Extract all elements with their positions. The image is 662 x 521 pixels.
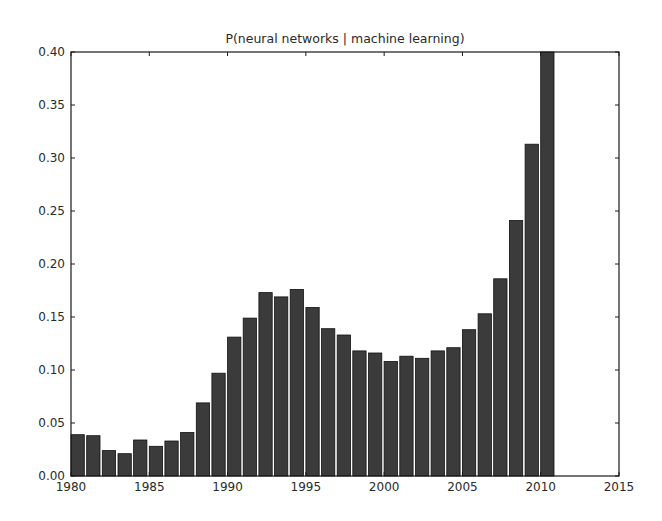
x-axis-tick-labels: 19801985199019952000200520102015 — [56, 480, 635, 494]
x-tick-label: 1980 — [56, 480, 87, 494]
x-tick-label: 2000 — [369, 480, 400, 494]
x-tick-label: 1995 — [291, 480, 322, 494]
bar-1992 — [259, 293, 272, 476]
bar-1996 — [322, 329, 335, 476]
y-tick-label: 0.35 — [38, 98, 65, 112]
x-tick-label: 2010 — [525, 480, 556, 494]
chart-title: P(neural networks | machine learning) — [225, 31, 464, 46]
y-tick-label: 0.40 — [38, 45, 65, 59]
bar-2008 — [509, 221, 522, 477]
y-tick-label: 0.30 — [38, 151, 65, 165]
bar-1980 — [71, 435, 84, 476]
y-tick-label: 0.20 — [38, 257, 65, 271]
bar-1999 — [369, 353, 382, 476]
y-tick-label: 0.10 — [38, 363, 65, 377]
x-tick-label: 1985 — [134, 480, 165, 494]
bar-1995 — [306, 308, 319, 477]
bar-1993 — [275, 297, 288, 476]
bar-1984 — [134, 440, 147, 476]
y-tick-label: 0.25 — [38, 204, 65, 218]
bar-chart: P(neural networks | machine learning) 0.… — [0, 0, 662, 521]
bar-1987 — [181, 433, 194, 477]
bar-2000 — [384, 362, 397, 477]
bar-2005 — [462, 330, 475, 476]
x-tick-label: 2005 — [447, 480, 478, 494]
y-tick-label: 0.05 — [38, 416, 65, 430]
bar-1988 — [196, 403, 209, 476]
bar-1983 — [118, 454, 131, 476]
bar-1985 — [149, 446, 162, 476]
bar-1986 — [165, 441, 178, 476]
bar-1991 — [243, 318, 256, 476]
bar-1989 — [212, 373, 225, 476]
bar-1990 — [228, 337, 241, 476]
bar-2006 — [478, 314, 491, 476]
x-tick-label: 1990 — [212, 480, 243, 494]
bar-2004 — [447, 348, 460, 476]
bar-2003 — [431, 351, 444, 476]
bar-1997 — [337, 335, 350, 476]
x-tick-label: 2015 — [604, 480, 635, 494]
bar-1981 — [87, 436, 100, 476]
bar-1998 — [353, 351, 366, 476]
y-axis-tick-labels: 0.000.050.100.150.200.250.300.350.40 — [38, 45, 65, 483]
bar-1994 — [290, 289, 303, 476]
bar-2009 — [525, 144, 538, 476]
bar-2001 — [400, 356, 413, 476]
bar-2002 — [416, 358, 429, 476]
bars-group — [71, 52, 554, 476]
y-tick-label: 0.15 — [38, 310, 65, 324]
bar-2010 — [541, 52, 554, 476]
bar-1982 — [102, 451, 115, 476]
bar-2007 — [494, 279, 507, 476]
